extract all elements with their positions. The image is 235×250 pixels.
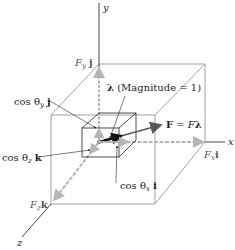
- Fz-label: Fzk: [30, 200, 48, 212]
- leader-cos-x: [116, 146, 117, 183]
- leader-lambda: [110, 96, 125, 138]
- x-axis-label: x: [228, 137, 234, 147]
- leader-cos-y: [50, 101, 96, 128]
- cos-theta-z-label: cos θz k: [2, 153, 42, 165]
- Fx-label: Fxi: [204, 150, 219, 162]
- z-axis-label: z: [17, 238, 22, 248]
- lambda-label: λ (Magnitude = 1): [107, 83, 201, 93]
- cos-theta-x-label: cos θx i: [120, 181, 157, 193]
- cos-theta-y-label: cos θy j: [14, 97, 51, 109]
- y-axis-label: y: [103, 3, 109, 13]
- force-label: F = Fλ: [166, 120, 202, 130]
- Fy-label: Fy j: [75, 58, 93, 70]
- force-components-diagram: y x z Fy j λ (Magnitude = 1) cos θy j F …: [0, 0, 235, 250]
